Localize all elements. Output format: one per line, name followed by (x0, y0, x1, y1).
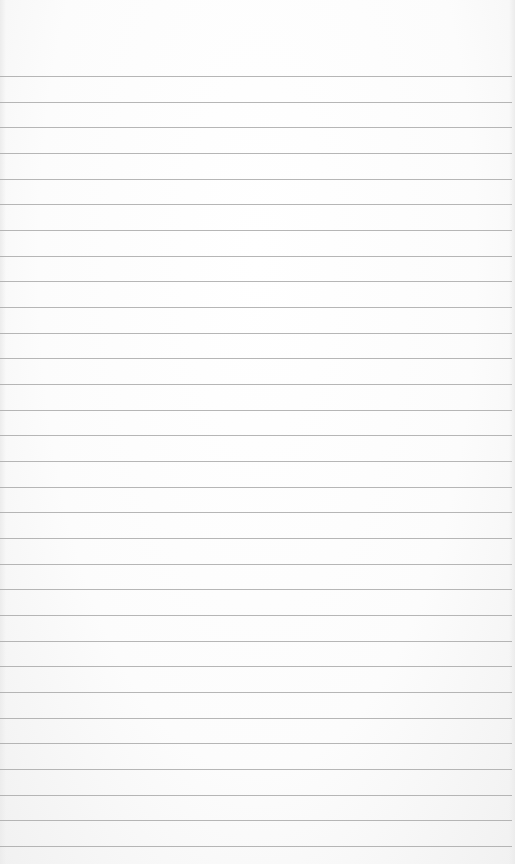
ruled-line (0, 384, 512, 385)
ruled-line (0, 846, 512, 847)
ruled-line (0, 204, 512, 205)
ruled-line (0, 666, 512, 667)
ruled-line (0, 743, 512, 744)
ruled-line (0, 127, 512, 128)
ruled-line (0, 795, 512, 796)
ruled-line (0, 718, 512, 719)
ruled-line (0, 641, 512, 642)
ruled-line (0, 333, 512, 334)
ruled-line (0, 307, 512, 308)
ruled-line (0, 564, 512, 565)
ruled-line (0, 76, 512, 77)
ruled-line (0, 102, 512, 103)
paper-edge-left (0, 0, 6, 864)
ruled-line (0, 179, 512, 180)
ruled-line (0, 589, 512, 590)
ruled-line (0, 435, 512, 436)
ruled-line (0, 153, 512, 154)
ruled-line (0, 615, 512, 616)
lined-paper (0, 0, 515, 864)
ruled-line (0, 512, 512, 513)
ruled-line (0, 538, 512, 539)
ruled-line (0, 692, 512, 693)
paper-edge-right (509, 0, 515, 864)
ruled-line (0, 769, 512, 770)
ruled-line (0, 281, 512, 282)
ruled-line (0, 230, 512, 231)
ruled-line (0, 410, 512, 411)
ruled-line (0, 358, 512, 359)
ruled-line (0, 256, 512, 257)
ruled-line (0, 487, 512, 488)
ruled-line (0, 820, 512, 821)
ruled-line (0, 461, 512, 462)
